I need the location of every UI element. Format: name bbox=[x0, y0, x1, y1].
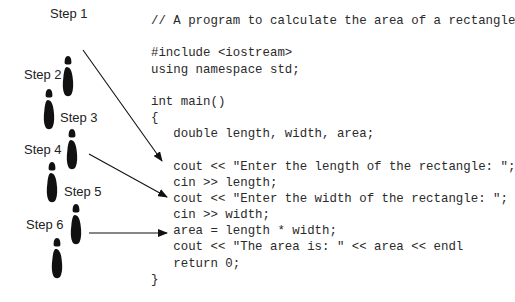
footprint-step-5-icon bbox=[71, 204, 81, 244]
code-prompt-width: cout << "Enter the width of the rectangl… bbox=[151, 192, 508, 206]
code-compute-area: area = length * width; bbox=[151, 224, 337, 238]
code-read-length: cin >> length; bbox=[151, 176, 277, 190]
code-main-signature: int main() bbox=[151, 95, 225, 109]
code-output-area: cout << "The area is: " << area << endl bbox=[151, 240, 463, 254]
code-read-width: cin >> width; bbox=[151, 208, 270, 222]
footprint-step-1-icon bbox=[63, 56, 73, 96]
code-open-brace: { bbox=[151, 111, 158, 125]
code-declaration: double length, width, area; bbox=[151, 127, 374, 141]
code-using: using namespace std; bbox=[151, 63, 300, 77]
code-close-brace: } bbox=[151, 273, 158, 287]
footprint-step-6-icon bbox=[52, 238, 62, 278]
footprint-step-2-icon bbox=[44, 89, 54, 129]
code-return: return 0; bbox=[151, 257, 240, 271]
code-include: #include <iostream> bbox=[151, 46, 292, 60]
code-prompt-length: cout << "Enter the length of the rectang… bbox=[151, 160, 515, 174]
footprint-step-3-icon bbox=[67, 129, 77, 169]
footprint-step-4-icon bbox=[47, 162, 57, 202]
code-comment: // A program to calculate the area of a … bbox=[151, 14, 515, 28]
